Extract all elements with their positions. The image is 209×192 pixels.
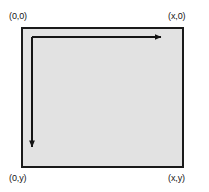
label-bottom-left: (0,y) [9, 173, 27, 183]
coordinate-space-diagram: (0,0) (x,0) (0,y) (x,y) [0, 0, 209, 192]
label-top-right: (x,0) [168, 11, 186, 21]
label-bottom-right: (x,y) [168, 173, 185, 183]
diagram-canvas [0, 0, 209, 192]
screen-bounds-rectangle [22, 28, 183, 167]
label-origin: (0,0) [9, 11, 27, 21]
